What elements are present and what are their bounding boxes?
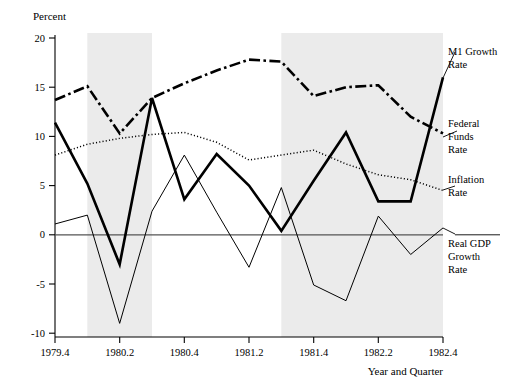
y-tick-label-5: 5: [40, 180, 45, 191]
x-tick-label-1981-2: 1981.2: [235, 347, 264, 358]
legend-label-inflation-line2: Rate: [448, 187, 468, 198]
economic-indicators-chart: 20 15 10 5 0 -5 -10 Percent 1979.4 1980.…: [0, 0, 505, 384]
legend-label-ffr-line1: Federal: [448, 118, 480, 129]
y-tick-label-20: 20: [35, 33, 46, 44]
x-tick-label-1981-4: 1981.4: [299, 347, 329, 358]
y-tick-label-10: 10: [35, 131, 46, 142]
recession-band-2: [281, 33, 443, 337]
chart-canvas: 20 15 10 5 0 -5 -10 Percent 1979.4 1980.…: [0, 0, 505, 384]
y-tick-label-minus10: -10: [31, 328, 45, 339]
recession-band-1: [87, 33, 152, 337]
leader-line-gdp: [443, 228, 455, 234]
legend-label-ffr-line3: Rate: [448, 144, 468, 155]
legend-label-gdp-line3: Rate: [448, 264, 468, 275]
y-axis-title: Percent: [33, 10, 66, 22]
x-tick-label-1982-4: 1982.4: [429, 347, 459, 358]
x-tick-label-1979-4: 1979.4: [41, 347, 71, 358]
x-tick-label-1982-2: 1982.2: [364, 347, 393, 358]
x-tick-label-1980-4: 1980.4: [170, 347, 200, 358]
x-tick-label-1980-2: 1980.2: [105, 347, 134, 358]
y-tick-label-minus5: -5: [36, 279, 45, 290]
legend-label-gdp-line2: Growth: [448, 251, 481, 262]
legend-label-m1-line1: M1 Growth: [448, 46, 498, 57]
legend-label-gdp-line1: Real GDP: [448, 238, 491, 249]
legend-label-m1-line2: Rate: [448, 59, 468, 70]
legend-label-ffr-line2: Funds: [448, 131, 474, 142]
y-tick-label-0: 0: [40, 229, 45, 240]
legend-label-inflation-line1: Inflation: [448, 174, 485, 185]
y-tick-label-15: 15: [35, 82, 46, 93]
x-axis-title: Year and Quarter: [368, 365, 444, 377]
